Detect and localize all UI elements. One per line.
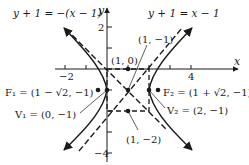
hyperbola-diagram: −2 4 2 −4 x y y + 1 = −(x − 1) y + 1 = x…: [0, 0, 249, 165]
asymptote-left-text: y + 1 = −(x − 1): [12, 7, 102, 19]
point-top-mid: [126, 67, 131, 72]
label-top-mid: (1, 0): [111, 55, 138, 66]
x-axis-label: x: [234, 55, 241, 68]
asymptote-right-text: y + 1 = x − 1: [147, 7, 220, 19]
y-tick-label-neg4: −4: [94, 148, 109, 159]
asymptote-label-right: y + 1 = x − 1: [147, 7, 220, 19]
label-v1: V₁ = (0, −1): [14, 109, 76, 120]
label-v2: V₂ = (2, −1): [166, 105, 228, 116]
x-tick-label-4: 4: [188, 71, 194, 82]
point-f2: [156, 88, 161, 93]
label-bottom-mid: (1, −2): [126, 134, 161, 145]
x-tick-label-neg2: −2: [59, 71, 74, 82]
asymptote-label-left: y + 1 = −(x − 1): [12, 7, 102, 19]
label-center: (1, −1): [138, 34, 173, 45]
point-f1: [96, 88, 101, 93]
label-f1: F₁ = (1 − √2, −1): [5, 87, 94, 98]
label-f2: F₂ = (1 + √2, −1): [163, 87, 249, 98]
y-tick-label-2: 2: [98, 22, 104, 33]
